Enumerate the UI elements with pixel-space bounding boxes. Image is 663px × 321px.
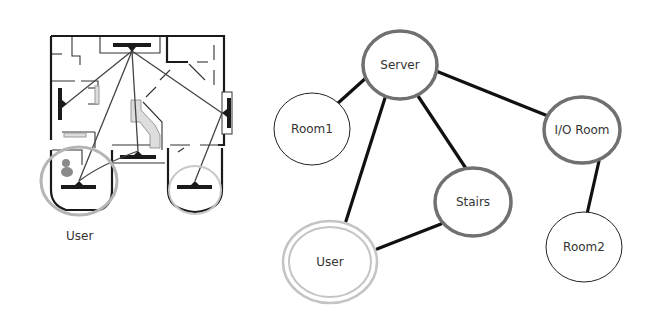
edge-server-room1 [337,77,367,104]
access-point-left [58,88,62,120]
window-left [95,86,99,104]
outer-wall-top-right [51,36,224,145]
floor-plan: User [41,36,232,243]
closet-diagonal [189,64,205,80]
left-room-wall-1 [72,37,80,65]
node-stairs-label: Stairs [456,195,490,209]
node-room2: Room2 [546,212,622,282]
signal-line-2 [79,51,132,181]
user-person-icon [61,159,73,177]
node-io-room-label: I/O Room [554,123,609,137]
node-user: User [283,221,377,303]
node-user-label: User [316,255,343,269]
diagram-canvas: User Server Room1 I/O Room [0,0,663,321]
access-point-bottom-right-tip [191,181,199,185]
node-room2-label: Room2 [563,240,605,254]
edge-io-room-room2 [587,161,599,214]
signal-line-4 [132,51,222,113]
edge-server-stairs [418,96,467,170]
node-room1-label: Room1 [291,122,333,136]
node-server: Server [363,31,437,99]
connectivity-graph: Server Room1 I/O Room Stairs User Room2 [274,31,622,303]
access-point-right [227,98,231,128]
node-stairs: Stairs [435,168,511,236]
node-server-label: Server [380,58,419,72]
door-mark [178,148,184,152]
floorplan-user-caption: User [66,229,93,243]
access-point-top [113,43,151,47]
window-mid [64,133,86,137]
access-point-user-room [61,185,96,189]
node-room1: Room1 [274,93,350,165]
closet-wall [167,37,188,62]
bottom-right-highlight-ring [169,166,221,214]
signal-line-5 [195,113,222,181]
edge-server-io-room [436,71,548,116]
node-io-room: I/O Room [544,97,620,163]
access-point-bottom-right [177,185,212,189]
edge-server-user [346,98,385,221]
edge-stairs-user [377,224,441,249]
access-point-user-room-tip [75,181,83,185]
